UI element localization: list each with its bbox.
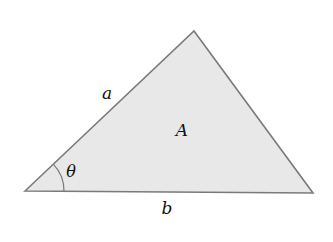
side-b-label: b xyxy=(162,198,173,218)
angle-theta-label: θ xyxy=(66,162,76,181)
side-a-label: a xyxy=(102,83,112,103)
area-label: A xyxy=(174,120,188,140)
triangle-diagram: a A θ b xyxy=(0,0,333,242)
